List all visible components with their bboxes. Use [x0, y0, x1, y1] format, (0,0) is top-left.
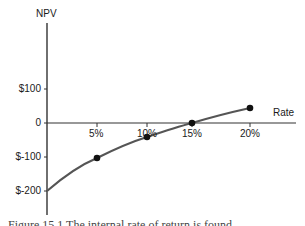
y-tick-label-m100: $-100 — [1, 152, 41, 162]
x-tick-label-5: 5% — [89, 129, 103, 139]
npv-chart — [0, 0, 305, 226]
y-tick-label-0: 0 — [1, 118, 41, 128]
figure-caption: Figure 15.1 The internal rate of return … — [8, 218, 232, 226]
npv-curve — [47, 108, 250, 191]
x-axis-title: Rate — [273, 108, 294, 118]
x-tick-label-20: 20% — [240, 129, 260, 139]
y-axis-title: NPV — [36, 9, 57, 19]
y-tick-label-m200: $-200 — [1, 186, 41, 196]
y-tick-label-100: $100 — [1, 84, 41, 94]
x-tick-label-10: 10% — [137, 129, 157, 139]
data-point-20pct — [247, 105, 254, 112]
data-point-5pct — [94, 155, 101, 162]
x-tick-label-15: 15% — [182, 129, 202, 139]
data-point-15pct — [189, 120, 196, 127]
